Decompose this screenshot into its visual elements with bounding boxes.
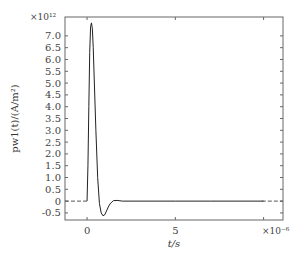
y-multiplier-label: ×10¹²: [30, 12, 57, 22]
y-tick-label: 0.5: [45, 184, 61, 195]
y-axis-label: pw1(t)/(A/m²): [9, 84, 20, 152]
y-tick-label: 1.5: [45, 160, 61, 171]
y-tick-label: 6.5: [45, 42, 61, 53]
y-tick-label: 5.5: [45, 66, 61, 77]
y-tick-label: -0.5: [42, 207, 61, 218]
data-series: [65, 23, 283, 216]
y-tick-label: 1.0: [45, 172, 61, 183]
y-tick-label: 4.5: [45, 89, 61, 100]
y-tick-label: 4.0: [45, 101, 61, 112]
y-tick-label: 3.0: [45, 125, 61, 136]
y-tick-label: 3.5: [45, 113, 61, 124]
y-axis-ticks: -0.500.51.01.52.02.53.03.54.04.55.05.56.…: [42, 30, 283, 218]
y-tick-label: 2.0: [45, 148, 61, 159]
x-axis-label: t/s: [168, 238, 181, 249]
plot-frame: [65, 17, 283, 220]
y-tick-label: 7.0: [45, 30, 61, 41]
y-tick-label: 6.0: [45, 54, 61, 65]
y-tick-label: 0: [55, 196, 61, 207]
x-tick-label: 5: [172, 225, 178, 236]
chart: -0.500.51.01.52.02.53.03.54.04.55.05.56.…: [0, 0, 303, 261]
x-multiplier-label: ×10⁻⁶: [262, 226, 290, 236]
y-tick-label: 2.5: [45, 137, 61, 148]
y-tick-label: 5.0: [45, 78, 61, 89]
x-tick-label: 0: [84, 225, 90, 236]
series-line-pw1(t): [87, 23, 264, 216]
